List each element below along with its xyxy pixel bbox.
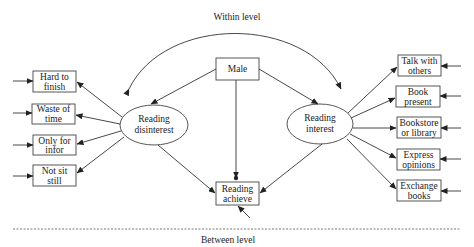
reading-achieve-label-2: achieve xyxy=(223,194,252,204)
loading-arrow xyxy=(77,131,121,144)
right-indicator-express-opinions: Express opinions xyxy=(350,134,461,170)
path-male-to-interest xyxy=(259,69,318,104)
reading-disinterest-label-2: disinterest xyxy=(134,125,173,135)
reading-disinterest-node: Reading disinterest xyxy=(120,105,188,145)
path-disinterest-to-achieve xyxy=(158,145,215,193)
path-interest-to-achieve xyxy=(260,144,322,193)
indicator-label-2: or library xyxy=(401,128,437,138)
loading-arrow xyxy=(76,115,120,124)
reading-interest-label-1: Reading xyxy=(304,113,336,123)
loading-arrow xyxy=(348,67,397,113)
indicator-label-2: opinions xyxy=(402,160,435,170)
loading-arrow xyxy=(350,134,396,158)
right-indicator-book-present: Book present xyxy=(351,86,461,118)
indicator-label-1: Exchange xyxy=(400,181,437,191)
reading-disinterest-label-1: Reading xyxy=(138,114,170,124)
path-diagram: Within level Male Reading disinterest Re… xyxy=(0,0,474,247)
indicator-label-2: books xyxy=(408,191,431,201)
right-indicator-bookstore-or-library: Bookstore or library xyxy=(353,117,461,138)
indicator-label-1: Book xyxy=(408,87,429,97)
reading-achieve-label-1: Reading xyxy=(222,184,254,194)
indicator-label-1: Waste of xyxy=(37,104,71,114)
reading-interest-label-2: interest xyxy=(306,124,334,134)
loading-arrow xyxy=(77,82,122,117)
indicator-label-2: infor xyxy=(45,145,64,155)
interaction-dot xyxy=(234,176,238,180)
reading-interest-node: Reading interest xyxy=(287,104,353,144)
indicator-label-1: Not sit xyxy=(42,166,68,176)
indicator-label-1: Hard to xyxy=(40,72,69,82)
loading-arrow xyxy=(77,137,124,173)
indicator-label-2: present xyxy=(404,97,432,107)
indicator-label-2: finish xyxy=(44,82,66,92)
male-node: Male xyxy=(216,58,259,80)
within-level-label: Within level xyxy=(214,12,261,22)
between-level-label: Between level xyxy=(201,235,255,245)
indicator-label-1: Bookstore xyxy=(399,118,438,128)
path-male-to-disinterest xyxy=(151,69,216,104)
loading-arrow xyxy=(347,139,396,189)
indicator-label-2: still xyxy=(47,176,62,186)
indicator-label-1: Talk with xyxy=(401,56,437,66)
reading-achieve-node: Reading achieve xyxy=(216,182,259,205)
indicator-label-2: time xyxy=(45,114,62,124)
indicator-label-2: others xyxy=(408,66,432,76)
residual-arrow-achieve xyxy=(238,206,250,218)
loading-arrow xyxy=(351,98,395,118)
left-indicator-waste-of-time: Waste of time xyxy=(13,104,120,124)
male-label: Male xyxy=(228,64,248,74)
indicator-label-1: Express xyxy=(403,150,433,160)
